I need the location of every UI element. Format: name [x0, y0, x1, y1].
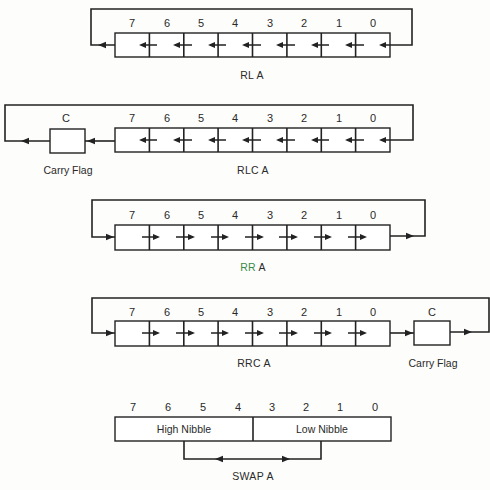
rlca-bit-labels: 7 6 5 4 3 2 1 0 [129, 112, 376, 124]
bit-label: 2 [301, 17, 307, 29]
bit-label: 4 [232, 112, 238, 124]
bit-label: 7 [130, 401, 136, 413]
bit-label: 0 [370, 209, 376, 221]
swap-diagram: 7 6 5 4 3 2 1 0 High Nibble Low Nibble S… [115, 401, 391, 482]
swap-caption: SWAP A [232, 470, 273, 482]
bit-label: 1 [336, 306, 342, 318]
bit-label: 2 [301, 209, 307, 221]
bit-label: 1 [336, 112, 342, 124]
carry-label: C [428, 306, 436, 318]
bit-label: 0 [370, 306, 376, 318]
bit-label: 0 [370, 17, 376, 29]
bit-label: 7 [129, 112, 135, 124]
rla-diagram: 7 6 5 4 3 2 1 0 [91, 9, 412, 81]
rotate-instructions-diagram: 7 6 5 4 3 2 1 0 [0, 0, 490, 490]
bit-label: 2 [303, 401, 309, 413]
rla-caption: RL A [240, 69, 264, 81]
bit-label: 0 [370, 112, 376, 124]
bit-label: 6 [164, 209, 170, 221]
rlca-diagram: C 7 6 5 4 3 2 1 0 [5, 105, 413, 176]
bit-label: 6 [164, 306, 170, 318]
bit-label: 5 [198, 17, 204, 29]
carry-label: C [62, 112, 70, 124]
bit-label: 5 [198, 112, 204, 124]
bit-label: 7 [129, 17, 135, 29]
bit-label: 3 [267, 209, 273, 221]
bit-label: 4 [232, 209, 238, 221]
bit-label: 1 [337, 401, 343, 413]
swap-bit-labels: 7 6 5 4 3 2 1 0 [130, 401, 378, 413]
rrca-carry-flag-caption: Carry Flag [408, 357, 457, 369]
bit-label: 5 [198, 306, 204, 318]
bit-label: 3 [267, 17, 273, 29]
bit-label: 6 [164, 112, 170, 124]
bit-label: 2 [301, 306, 307, 318]
rra-caption-op: RR [240, 261, 256, 273]
rra-caption: RR A [240, 261, 266, 273]
bit-label: 6 [164, 17, 170, 29]
rlca-caption: RLC A [237, 164, 269, 176]
bit-label: 7 [129, 306, 135, 318]
bit-label: 1 [336, 17, 342, 29]
bit-label: 3 [269, 401, 275, 413]
rlca-carry-flag-box [50, 129, 85, 153]
rrca-caption: RRC A [237, 357, 271, 369]
bit-label: 2 [301, 112, 307, 124]
bit-label: 5 [200, 401, 206, 413]
bit-label: 4 [232, 17, 238, 29]
bit-label: 6 [165, 401, 171, 413]
bit-label: 4 [235, 401, 241, 413]
high-nibble-label: High Nibble [157, 423, 211, 435]
rra-bit-labels: 7 6 5 4 3 2 1 0 [129, 209, 376, 221]
swap-exchange-bracket [184, 441, 321, 462]
rrca-bit-labels: 7 6 5 4 3 2 1 0 [129, 306, 376, 318]
rra-diagram: 7 6 5 4 3 2 1 0 [92, 200, 425, 273]
bit-label: 3 [267, 306, 273, 318]
rrca-carry-flag-box [414, 321, 450, 345]
low-nibble-label: Low Nibble [296, 423, 348, 435]
bit-label: 0 [372, 401, 378, 413]
bit-label: 5 [198, 209, 204, 221]
bit-label: 1 [336, 209, 342, 221]
bit-label: 4 [232, 306, 238, 318]
rrca-diagram: 7 6 5 4 3 2 1 0 C [92, 298, 489, 369]
bit-label: 3 [267, 112, 273, 124]
bit-label: 7 [129, 209, 135, 221]
rla-bit-labels: 7 6 5 4 3 2 1 0 [129, 17, 376, 29]
rlca-carry-flag-caption: Carry Flag [43, 164, 92, 176]
